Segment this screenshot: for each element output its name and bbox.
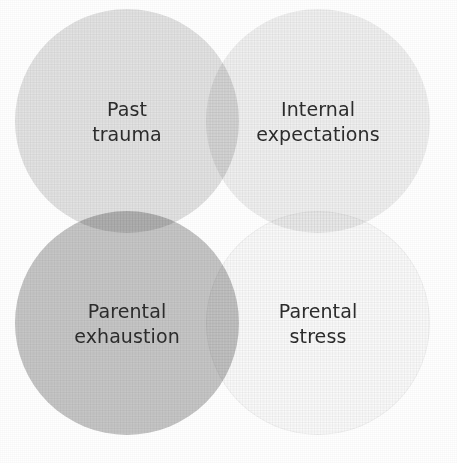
circle-label-parental-stress: Parental stress	[206, 299, 430, 349]
circle-label-internal-expectations: Internal expectations	[206, 97, 430, 147]
venn-diagram: Past trauma Internal expectations Parent…	[0, 0, 457, 463]
label-layer: Past trauma Internal expectations Parent…	[0, 0, 457, 463]
